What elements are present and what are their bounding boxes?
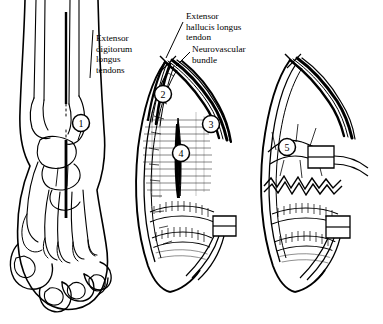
label-ehl-line-3: tendon (186, 32, 241, 43)
label-extensor-hallucis-longus: Extensor hallucis longus tendon (186, 11, 241, 43)
label-nvb-line-2: bundle (192, 55, 246, 66)
marker-4: 4 (173, 145, 190, 162)
figure-canvas: 1 2 3 4 5 Extensor digitorum longus tend… (0, 0, 383, 324)
label-extensor-digitorum-longus: Extensor digitorum longus tendons (96, 33, 132, 75)
marker-5-number: 5 (285, 142, 290, 153)
label-ehl-line-1: Extensor (186, 11, 241, 22)
leader-ehl (166, 22, 183, 58)
marker-1: 1 (73, 115, 90, 132)
marker-2-number: 2 (161, 89, 166, 100)
label-edl-line-4: tendons (96, 65, 132, 76)
label-ehl-line-2: hallucis longus (186, 22, 241, 33)
marker-1-number: 1 (79, 118, 84, 129)
right-panel (258, 54, 368, 292)
marker-5: 5 (279, 139, 296, 156)
leader-edl (90, 30, 93, 78)
marker-2: 2 (155, 86, 172, 103)
label-neurovascular-bundle: Neurovascular bundle (192, 44, 246, 65)
label-edl-line-2: digitorum (96, 44, 132, 55)
label-edl-line-1: Extensor (96, 33, 132, 44)
middle-panel (134, 56, 236, 292)
marker-4-number: 4 (179, 148, 184, 159)
marker-3-number: 3 (209, 119, 214, 130)
marker-3: 3 (203, 116, 220, 133)
label-nvb-line-1: Neurovascular (192, 44, 246, 55)
label-edl-line-3: longus (96, 54, 132, 65)
